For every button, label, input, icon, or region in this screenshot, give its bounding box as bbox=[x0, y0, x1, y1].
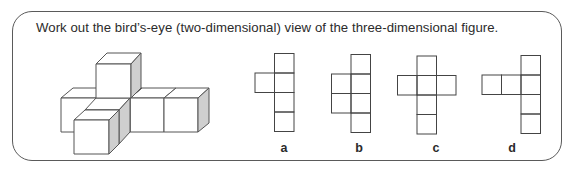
option-c-label[interactable]: c bbox=[433, 141, 440, 155]
option-b-label[interactable]: b bbox=[355, 141, 363, 155]
option-d-label[interactable]: d bbox=[508, 141, 516, 155]
cube-front bbox=[74, 110, 119, 154]
cube-right-2 bbox=[164, 88, 209, 132]
option-a-label[interactable]: a bbox=[281, 141, 288, 155]
cube-stacked-top bbox=[96, 53, 141, 98]
